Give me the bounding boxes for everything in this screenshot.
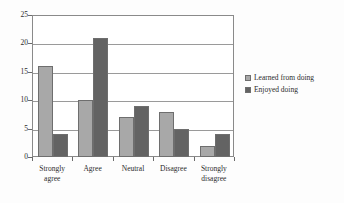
bar-enjoyed-neutral[interactable]: [134, 106, 149, 157]
bar-learned-strongly-agree[interactable]: [38, 66, 53, 157]
y-tick-label-15: 15: [2, 68, 28, 76]
bar-group-strongly-agree: [32, 15, 72, 157]
legend-swatch-learned-icon: [245, 75, 251, 81]
x-tick-mark-0: [32, 157, 33, 161]
bar-group-agree: [72, 15, 112, 157]
legend-label-enjoyed: Enjoyed doing: [254, 86, 298, 94]
legend-item-learned[interactable]: Learned from doing: [245, 72, 341, 83]
x-tick-label-line-2: agree: [26, 174, 78, 184]
bar-enjoyed-strongly-disagree[interactable]: [215, 134, 230, 157]
y-tick-label-0: 0: [2, 153, 28, 161]
x-tick-mark-4: [194, 157, 195, 161]
legend-label-learned: Learned from doing: [254, 74, 314, 82]
chart-legend: Learned from doing Enjoyed doing: [245, 72, 341, 96]
bar-group-disagree: [153, 15, 193, 157]
bar-enjoyed-disagree[interactable]: [174, 129, 189, 157]
y-tick-label-20: 20: [2, 39, 28, 47]
bar-enjoyed-agree[interactable]: [93, 38, 108, 157]
x-tick-mark-2: [113, 157, 114, 161]
legend-item-enjoyed[interactable]: Enjoyed doing: [245, 84, 341, 95]
bar-enjoyed-strongly-agree[interactable]: [53, 134, 68, 157]
bar-learned-agree[interactable]: [78, 100, 93, 157]
bars-layer: [32, 15, 234, 157]
bar-learned-strongly-disagree[interactable]: [200, 146, 215, 157]
y-tick-label-10: 10: [2, 96, 28, 104]
x-tick-label-line-2: disagree: [188, 174, 240, 184]
legend-swatch-enjoyed-icon: [245, 87, 251, 93]
y-tick-label-25: 25: [2, 11, 28, 19]
bar-learned-disagree[interactable]: [159, 112, 174, 157]
x-tick-label-strongly-disagree: Strongly disagree: [188, 164, 240, 184]
x-tick-label-line-1: Strongly: [188, 164, 240, 174]
bar-group-neutral: [113, 15, 153, 157]
bar-learned-neutral[interactable]: [119, 117, 134, 157]
bar-group-strongly-disagree: [194, 15, 234, 157]
x-tick-mark-1: [72, 157, 73, 161]
y-tick-label-5: 5: [2, 125, 28, 133]
x-tick-mark-5: [234, 157, 235, 161]
bar-chart-figure: 25 20 15 10 5 0: [0, 0, 344, 203]
x-tick-mark-3: [153, 157, 154, 161]
